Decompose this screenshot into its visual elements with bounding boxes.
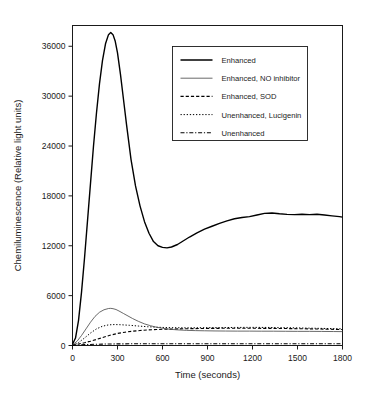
chart-figure: 0600012000180002400030000360000300600900… (0, 0, 366, 409)
x-tick-label: 0 (70, 353, 75, 363)
y-tick-label: 6000 (47, 291, 66, 301)
x-tick-label: 900 (200, 353, 214, 363)
x-tick-label: 1200 (243, 353, 262, 363)
legend-layer: EnhancedEnhanced, NO inhibitorEnhanced, … (173, 47, 308, 141)
x-axis-title: Time (seconds) (175, 369, 240, 380)
y-tick-label: 36000 (42, 41, 66, 51)
legend-label: Enhanced, SOD (222, 92, 277, 101)
y-tick-label: 0 (61, 341, 66, 351)
legend-label: Unenhanced, Lucigenin (222, 111, 302, 120)
chemiluminescence-line-chart: 0600012000180002400030000360000300600900… (0, 0, 366, 409)
y-tick-label: 30000 (42, 91, 66, 101)
x-tick-label: 300 (110, 353, 124, 363)
y-tick-label: 12000 (42, 241, 66, 251)
series-line (73, 308, 343, 344)
y-axis-title: Chemiluminescence (Relative light units) (12, 100, 23, 272)
x-tick-label: 600 (155, 353, 169, 363)
y-tick-label: 24000 (42, 141, 66, 151)
x-tick-label: 1800 (333, 353, 352, 363)
y-tick-label: 18000 (42, 191, 66, 201)
x-tick-label: 1500 (288, 353, 307, 363)
legend-label: Unenhanced (222, 129, 265, 138)
legend-label: Enhanced (222, 56, 256, 65)
legend-label: Enhanced, NO inhibitor (222, 74, 301, 83)
